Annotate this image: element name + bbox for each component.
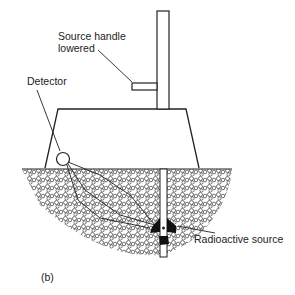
source-handle-label: Source handle lowered — [58, 30, 126, 54]
panel-label: (b) — [41, 271, 54, 283]
source-rod — [157, 11, 169, 109]
label-line-2: lowered — [58, 42, 126, 54]
detector-label: Detector — [27, 75, 67, 87]
radioactive-source-label: Radioactive source — [194, 233, 283, 245]
label-line-1: Source handle — [58, 30, 126, 42]
gauge-diagram — [0, 0, 295, 295]
diagram-root: Source handle lowered Detector Radioacti… — [0, 0, 295, 295]
detector — [57, 153, 70, 166]
source-handle — [132, 83, 157, 90]
